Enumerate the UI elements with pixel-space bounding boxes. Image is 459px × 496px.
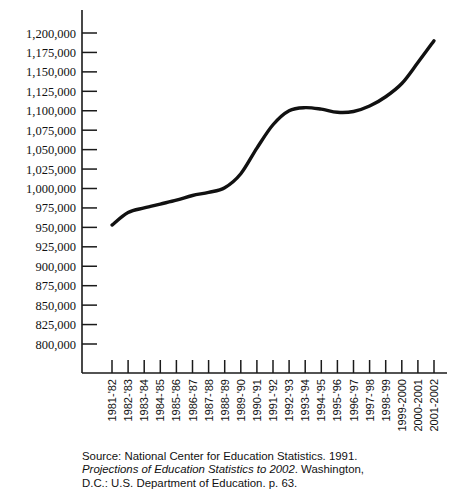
- x-axis-tick-label: 1986-'87: [187, 379, 199, 421]
- x-axis-tick-label: 1981-'82: [106, 379, 118, 421]
- y-axis-tick-label: 1,000,000: [26, 182, 76, 196]
- y-axis-tick-label: 875,000: [35, 279, 76, 293]
- x-axis-tick-label: 1997-'98: [364, 379, 376, 421]
- x-axis-tick-label: 1989-'90: [235, 379, 247, 421]
- chart-container: 1,200,0001,175,0001,150,0001,125,0001,10…: [0, 0, 459, 496]
- x-axis-tick-label: 1992-'93: [283, 379, 295, 421]
- source-title-italic: Projections of Education Statistics to 2…: [82, 463, 295, 475]
- source-line-3: D.C.: U.S. Department of Education. p. 6…: [82, 477, 297, 489]
- x-axis-tick-label: 2000-2001: [412, 379, 424, 432]
- y-axis-tick-label: 1,150,000: [26, 65, 76, 79]
- y-axis-tick-label: 825,000: [35, 318, 76, 332]
- y-axis-tick-label: 1,050,000: [26, 143, 76, 157]
- x-axis-tick-label: 1999-2000: [396, 379, 408, 432]
- source-citation: Source: National Center for Education St…: [82, 450, 432, 490]
- x-axis-tick-label: 1993-'94: [299, 379, 311, 421]
- y-axis-tick-label: 1,125,000: [26, 85, 76, 99]
- y-axis-tick-label: 800,000: [35, 338, 76, 352]
- x-axis-tick-label: 1994-'95: [315, 379, 327, 421]
- y-axis-label-group: 1,200,0001,175,0001,150,0001,125,0001,10…: [26, 27, 76, 352]
- x-axis-tick-label: 1998-'99: [380, 379, 392, 421]
- line-chart: 1,200,0001,175,0001,150,0001,125,0001,10…: [0, 0, 459, 450]
- x-axis-label-group: 1981-'821982-'831983-'841984-'851985-'86…: [106, 379, 440, 432]
- x-axis-tick-label: 1988-'89: [219, 379, 231, 421]
- y-axis-tick-label: 850,000: [35, 299, 76, 313]
- x-axis-tick-label: 1995-'96: [331, 379, 343, 421]
- x-axis-tick-label: 1991-'92: [267, 379, 279, 421]
- source-line-1: Source: National Center for Education St…: [82, 450, 357, 462]
- y-axis-tick-label: 1,025,000: [26, 163, 76, 177]
- data-series-line: [112, 41, 434, 225]
- x-axis-tick-label: 1982-'83: [122, 379, 134, 421]
- x-axis-tick-label: 1990-'91: [251, 379, 263, 421]
- source-line-2-rest: . Washington,: [295, 463, 364, 475]
- y-axis-tick-label: 925,000: [35, 240, 76, 254]
- y-axis-tick-label: 1,175,000: [26, 46, 76, 60]
- y-axis-tick-label: 1,075,000: [26, 124, 76, 138]
- y-axis-tick-group: [82, 33, 97, 344]
- y-axis-tick-label: 900,000: [35, 260, 76, 274]
- x-axis-tick-label: 1987-'88: [203, 379, 215, 421]
- y-axis-tick-label: 975,000: [35, 201, 76, 215]
- x-axis-tick-label: 1985-'86: [170, 379, 182, 421]
- x-axis-tick-label: 1983-'84: [138, 379, 150, 421]
- x-axis-tick-label: 1996-'97: [348, 379, 360, 421]
- x-axis-tick-group: [112, 360, 434, 373]
- x-axis-tick-label: 1984-'85: [154, 379, 166, 421]
- y-axis-tick-label: 1,200,000: [26, 27, 76, 41]
- y-axis-tick-label: 1,100,000: [26, 104, 76, 118]
- x-axis-tick-label: 2001-2002: [428, 379, 440, 432]
- y-axis-tick-label: 950,000: [35, 221, 76, 235]
